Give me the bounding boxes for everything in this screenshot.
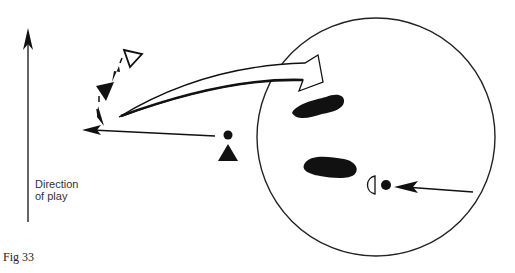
circle-area — [257, 18, 495, 256]
direction-label-line2: of play — [35, 190, 78, 202]
incoming-arrow-right — [394, 181, 473, 193]
figure-caption: Fig 33 — [3, 250, 34, 265]
dashed-run-lower — [97, 96, 104, 126]
ball-icon — [224, 131, 233, 140]
diagram-canvas — [0, 0, 515, 273]
ball-icon — [381, 180, 391, 190]
direction-label-line1: Direction — [35, 178, 78, 190]
direction-arrow-icon — [23, 28, 33, 222]
pass-arrow-left — [82, 125, 215, 136]
footprint-icon — [304, 157, 357, 178]
curved-open-arrow-icon — [119, 55, 323, 117]
open-triangle-icon — [124, 50, 142, 67]
half-circle-icon — [368, 176, 376, 194]
direction-label: Direction of play — [35, 178, 78, 202]
dashed-run-upper — [112, 58, 122, 82]
filled-triangle-icon — [218, 144, 238, 161]
footprint-icon — [292, 95, 344, 118]
